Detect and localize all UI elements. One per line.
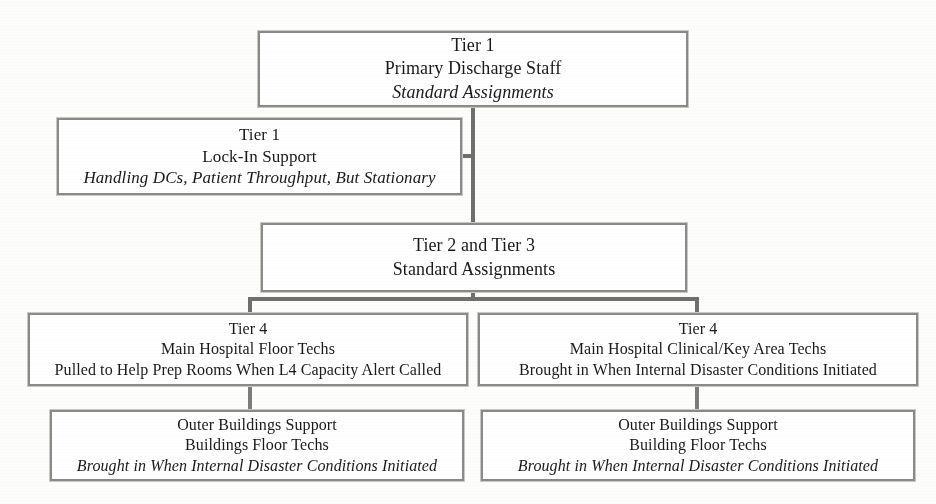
node-tier2-and-tier3[interactable]: Tier 2 and Tier 3 Standard Assignments [261,223,687,292]
node-line-1: Outer Buildings Support [618,415,778,435]
connector-tier1-to-tier23 [471,106,475,223]
connector-branch-right-drop [695,297,699,314]
node-line-1: Outer Buildings Support [177,415,337,435]
node-line-3: Pulled to Help Prep Rooms When L4 Capaci… [55,360,442,380]
node-tier1-lock-in-support[interactable]: Tier 1 Lock-In Support Handling DCs, Pat… [57,118,462,195]
node-line-2: Lock-In Support [202,146,316,168]
node-line-1: Tier 4 [229,319,268,339]
node-line-2: Buildings Floor Techs [185,435,329,455]
node-line-3: Handling DCs, Patient Throughput, But St… [83,167,435,189]
node-outer-buildings-support-left[interactable]: Outer Buildings Support Buildings Floor … [50,410,464,481]
node-line-2: Primary Discharge Staff [385,57,562,80]
connector-tier4right-to-outerright [695,385,699,411]
node-tier4-main-hospital-floor-techs[interactable]: Tier 4 Main Hospital Floor Techs Pulled … [28,313,468,386]
node-line-3: Brought in When Internal Disaster Condit… [519,360,877,380]
node-tier1-primary-discharge-staff[interactable]: Tier 1 Primary Discharge Staff Standard … [258,31,688,107]
connector-branch-left-drop [248,297,252,314]
node-line-2: Main Hospital Clinical/Key Area Techs [570,339,826,359]
node-line-3: Standard Assignments [392,81,554,104]
node-tier4-main-hospital-clinical-key-area-techs[interactable]: Tier 4 Main Hospital Clinical/Key Area T… [478,313,918,386]
node-line-1: Tier 2 and Tier 3 [413,234,535,257]
node-line-1: Tier 4 [679,319,718,339]
connector-tier4left-to-outerleft [248,385,252,411]
node-line-3: Brought in When Internal Disaster Condit… [77,456,437,476]
node-line-1: Tier 1 [451,34,494,57]
node-outer-buildings-support-right[interactable]: Outer Buildings Support Building Floor T… [481,410,915,481]
flowchart-canvas: Tier 1 Primary Discharge Staff Standard … [0,0,936,504]
node-line-2: Standard Assignments [393,258,556,281]
node-line-3: Brought in When Internal Disaster Condit… [518,456,878,476]
node-line-2: Building Floor Techs [629,435,766,455]
node-line-2: Main Hospital Floor Techs [161,339,335,359]
connector-branch-bar [248,297,699,301]
node-line-1: Tier 1 [239,124,280,146]
